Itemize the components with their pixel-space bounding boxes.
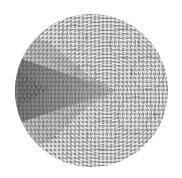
tiling-disc <box>15 14 168 167</box>
